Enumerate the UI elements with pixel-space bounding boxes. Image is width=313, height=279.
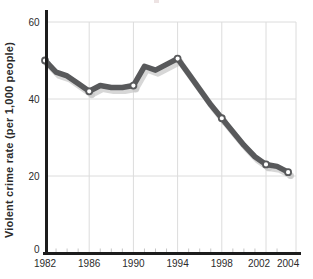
y-tick-label: 20 (28, 171, 40, 182)
x-axis-line (43, 252, 301, 255)
y-tick-label: 40 (28, 94, 40, 105)
data-point-marker (86, 88, 92, 94)
x-tick-label: 1998 (211, 258, 234, 269)
x-tick-label: 2004 (277, 258, 300, 269)
data-point-marker (175, 56, 181, 62)
scan-artifact (154, 0, 159, 3)
x-tick-label: 1994 (166, 258, 189, 269)
x-tick-label: 1990 (122, 258, 145, 269)
crime-rate-figure: 1982198619901994199820022004 0204060 Vio… (0, 0, 313, 279)
x-tick-label: 2002 (248, 258, 271, 269)
x-tick-label: 1982 (34, 258, 57, 269)
y-tick-label: 60 (28, 17, 40, 28)
crime-rate-line (45, 59, 288, 173)
data-point-marker (263, 161, 269, 167)
y-axis-title: Violent crime rate (per 1,000 people) (3, 42, 15, 238)
data-point-marker (130, 83, 136, 89)
crime-rate-line-chart: 1982198619901994199820022004 0204060 Vio… (0, 0, 313, 279)
axes (43, 10, 301, 255)
data-point-marker (219, 115, 225, 121)
y-tick-label: 0 (34, 244, 40, 255)
gridlines (45, 22, 296, 253)
x-tick-label: 1986 (78, 258, 101, 269)
y-axis-line (45, 10, 48, 255)
x-tick-labels: 1982198619901994199820022004 (34, 258, 300, 269)
data-line (45, 59, 288, 173)
data-point-marker (285, 169, 291, 175)
y-tick-labels: 0204060 (28, 17, 40, 255)
